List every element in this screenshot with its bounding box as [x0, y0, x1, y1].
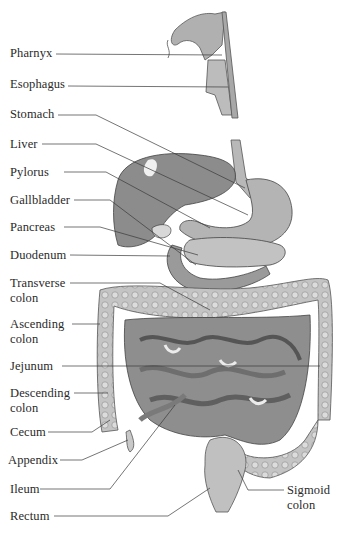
label-gallbladder: Gallbladder [10, 193, 70, 208]
label-line: colon [10, 332, 64, 347]
label-ascending-colon: Ascending colon [10, 317, 64, 347]
label-line: colon [287, 498, 330, 513]
label-pylorus: Pylorus [10, 165, 49, 180]
label-ileum: Ileum [10, 482, 40, 497]
label-descending-colon: Descending colon [10, 386, 70, 416]
label-pharynx: Pharnyx [10, 46, 52, 61]
label-rectum: Rectum [10, 509, 49, 524]
label-jejunum: Jejunum [10, 359, 53, 374]
gallbladder-illustration [152, 225, 171, 238]
label-line: colon [10, 401, 70, 416]
appendix-illustration [126, 430, 134, 452]
label-esophagus: Esophagus [10, 77, 65, 92]
label-line: Transverse [10, 276, 65, 291]
pharynx-illustration [167, 12, 238, 118]
rectum-illustration [205, 437, 246, 512]
label-appendix: Appendix [8, 453, 58, 468]
label-pancreas: Pancreas [10, 220, 55, 235]
digestive-system-diagram: Pharnyx Esophagus Stomach Liver Pylorus … [0, 0, 342, 533]
label-sigmoid-colon: Sigmoid colon [287, 483, 330, 513]
small-intestine-illustration [124, 315, 310, 444]
label-stomach: Stomach [10, 107, 54, 122]
label-liver: Liver [10, 137, 38, 152]
label-duodenum: Duodenum [10, 248, 66, 263]
label-transverse-colon: Transverse colon [10, 276, 65, 306]
label-line: Sigmoid [287, 483, 330, 498]
label-line: Descending [10, 386, 70, 401]
label-line: colon [10, 291, 65, 306]
label-line: Ascending [10, 317, 64, 332]
label-cecum: Cecum [10, 425, 46, 440]
pancreas-illustration [184, 238, 285, 267]
